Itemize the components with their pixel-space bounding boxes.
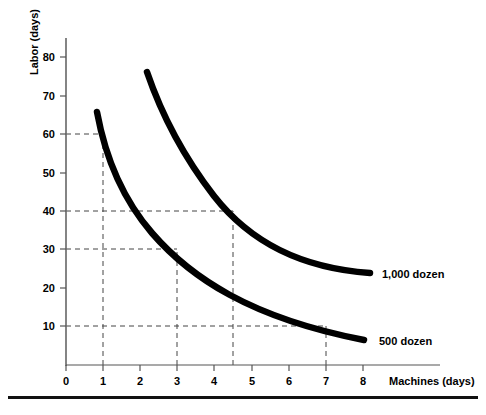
x-tick-label-3: 3 xyxy=(174,375,180,387)
x-tick-label-1: 1 xyxy=(100,375,106,387)
chart-background xyxy=(0,0,486,415)
x-tick-label-6: 6 xyxy=(286,375,292,387)
x-tick-label-2: 2 xyxy=(137,375,143,387)
chart-canvas: 80 70 60 50 40 30 20 10 0 1 2 3 4 5 6 7 … xyxy=(0,0,486,415)
y-tick-label-20: 20 xyxy=(43,282,55,294)
isoquant-chart-figure: 80 70 60 50 40 30 20 10 0 1 2 3 4 5 6 7 … xyxy=(0,0,486,415)
x-tick-label-7: 7 xyxy=(323,375,329,387)
y-tick-label-30: 30 xyxy=(43,243,55,255)
curve-label-500-dozen: 500 dozen xyxy=(379,335,432,347)
x-tick-label-4: 4 xyxy=(211,375,218,387)
y-tick-label-70: 70 xyxy=(43,90,55,102)
curve-label-1000-dozen: 1,000 dozen xyxy=(382,268,445,280)
y-axis-title: Labor (days) xyxy=(28,9,40,75)
bottom-rule-divider xyxy=(8,396,478,399)
y-tick-label-10: 10 xyxy=(43,320,55,332)
x-tick-label-8: 8 xyxy=(360,375,366,387)
x-axis-title: Machines (days) xyxy=(389,375,475,387)
y-tick-label-60: 60 xyxy=(43,128,55,140)
y-tick-label-80: 80 xyxy=(43,51,55,63)
y-tick-label-50: 50 xyxy=(43,167,55,179)
y-tick-label-40: 40 xyxy=(43,205,55,217)
x-tick-label-5: 5 xyxy=(249,375,255,387)
x-tick-label-0: 0 xyxy=(63,375,69,387)
